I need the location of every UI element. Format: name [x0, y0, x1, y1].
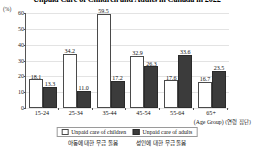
- y-tick-label: 50: [18, 26, 24, 32]
- bar-group: 16.723.5: [195, 13, 229, 108]
- y-tick-label: 0: [21, 105, 24, 111]
- x-axis-caption: (Age Group) (연령 집단): [194, 118, 251, 126]
- bar-value-label: 16.7: [200, 76, 211, 82]
- bar: 23.5: [212, 71, 226, 108]
- bar-value-label: 17.2: [112, 75, 123, 81]
- bar-value-label: 34.2: [64, 48, 75, 54]
- bar-group: 32.926.3: [127, 13, 161, 108]
- legend-swatch-icon: [62, 129, 69, 135]
- chart-container: Unpaid Care of Children and Adults in Ca…: [0, 0, 254, 155]
- bar: 32.9: [130, 56, 144, 108]
- legend-label: Unpaid care of children: [71, 129, 126, 135]
- chart-title: Unpaid Care of Children and Adults in Ca…: [0, 0, 254, 4]
- bar-value-label: 13.3: [45, 81, 56, 87]
- plot-area: 0102030405060 18.113.334.211.059.517.232…: [25, 13, 229, 109]
- y-tick-label: 20: [18, 73, 24, 79]
- bar-value-label: 26.3: [146, 61, 157, 67]
- legend-label: Unpaid care of adults: [143, 129, 193, 135]
- y-tick-label: 30: [18, 58, 24, 64]
- bar-group: 34.211.0: [60, 13, 94, 108]
- legend-sublabel: 성인에 대한 무급 돌봄: [136, 139, 186, 147]
- bar-group: 59.517.2: [94, 13, 128, 108]
- bar: 17.6: [164, 80, 178, 108]
- bar: 18.1: [29, 79, 43, 108]
- bar-group: 18.113.3: [26, 13, 60, 108]
- bar-value-label: 59.5: [98, 8, 109, 14]
- y-tick-label: 40: [18, 42, 24, 48]
- bar: 13.3: [43, 87, 57, 108]
- legend-item[interactable]: Unpaid care of adults: [133, 129, 192, 135]
- legend-swatch-icon: [133, 129, 140, 135]
- bar-value-label: 18.1: [31, 74, 42, 80]
- legend-sublabel: 아동에 대한 무급 돌봄: [68, 139, 118, 147]
- bar-value-label: 11.0: [79, 85, 89, 91]
- bar: 16.7: [198, 82, 212, 108]
- legend-item[interactable]: Unpaid care of children: [62, 129, 126, 135]
- bar-value-label: 33.6: [180, 49, 191, 55]
- bar: 33.6: [178, 55, 192, 108]
- bar: 26.3: [144, 66, 158, 108]
- x-axis-caption-kr: (연령 집단): [225, 119, 251, 125]
- bar: 17.2: [111, 81, 125, 108]
- x-tick-label: 15-24: [25, 110, 59, 119]
- y-axis-unit-label: (%): [3, 6, 11, 12]
- bar-groups: 18.113.334.211.059.517.232.926.317.633.6…: [26, 13, 229, 108]
- x-tick-label: 25-34: [59, 110, 93, 119]
- y-tick-label: 60: [18, 10, 24, 16]
- bar-value-label: 23.5: [214, 65, 225, 71]
- chart-legend: Unpaid care of childrenUnpaid care of ad…: [57, 127, 198, 137]
- legend-korean-sublabels: 아동에 대한 무급 돌봄성인에 대한 무급 돌봄: [0, 139, 254, 147]
- bar: 59.5: [97, 14, 111, 108]
- bar-value-label: 17.6: [166, 75, 177, 81]
- bar: 11.0: [77, 91, 91, 108]
- bar-group: 17.633.6: [161, 13, 195, 108]
- x-tick-label: 45-54: [126, 110, 160, 119]
- x-tick-label: 35-44: [93, 110, 127, 119]
- bar: 34.2: [63, 54, 77, 108]
- x-axis-caption-en: (Age Group): [194, 119, 224, 125]
- y-tick-label: 10: [18, 89, 24, 95]
- bar-value-label: 32.9: [132, 50, 143, 56]
- x-tick-label: 55-64: [160, 110, 194, 119]
